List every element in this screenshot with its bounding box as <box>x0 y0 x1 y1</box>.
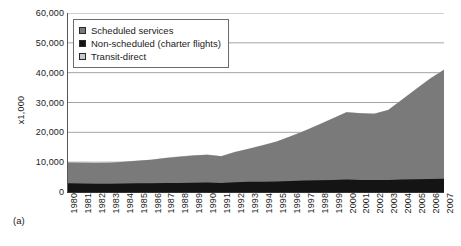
x-tick-label: 2003 <box>390 193 399 233</box>
figure-panel: x1,000 60,00050,00040,00030,00020,00010,… <box>0 0 461 246</box>
legend-swatch-icon <box>79 40 86 47</box>
x-tick-label: 1996 <box>293 193 302 233</box>
chart-legend: Scheduled servicesNon-scheduled (charter… <box>73 19 229 68</box>
y-tick-label: 60,000 <box>16 9 64 18</box>
x-tick-label: 1989 <box>195 193 204 233</box>
x-tick-label: 1990 <box>209 193 218 233</box>
legend-item: Non-scheduled (charter flights) <box>79 37 221 50</box>
x-tick-label: 2006 <box>432 193 441 233</box>
legend-item: Transit-direct <box>79 50 221 63</box>
x-tick-label: 2007 <box>446 193 455 233</box>
legend-item-label: Non-scheduled (charter flights) <box>91 39 221 49</box>
x-tick-label: 1988 <box>181 193 190 233</box>
x-tick-label: 1998 <box>321 193 330 233</box>
x-tick-label: 1985 <box>140 193 149 233</box>
y-tick-label: 20,000 <box>16 128 64 137</box>
x-tick-label: 1993 <box>251 193 260 233</box>
area-series <box>68 70 444 192</box>
x-tick-label: 1986 <box>154 193 163 233</box>
x-tick-label: 2005 <box>418 193 427 233</box>
x-tick-label: 2000 <box>349 193 358 233</box>
x-tick-label: 1981 <box>84 193 93 233</box>
x-tick-label: 2001 <box>362 193 371 233</box>
y-tick-label: 10,000 <box>16 158 64 167</box>
x-tick-label: 1980 <box>70 193 79 233</box>
x-axis-tick-labels: 1980198119821983198419851986198719881989… <box>67 193 445 246</box>
x-tick-label: 1997 <box>307 193 316 233</box>
y-tick-label: 40,000 <box>16 69 64 78</box>
x-tick-label: 2004 <box>404 193 413 233</box>
x-tick-label: 1999 <box>335 193 344 233</box>
legend-swatch-icon <box>79 53 86 60</box>
x-tick-label: 1991 <box>223 193 232 233</box>
legend-swatch-icon <box>79 27 86 34</box>
panel-label: (a) <box>13 215 25 226</box>
y-axis-tick-labels: 60,00050,00040,00030,00020,00010,0000 <box>14 0 64 246</box>
x-tick-label: 1984 <box>126 193 135 233</box>
x-tick-label: 1983 <box>112 193 121 233</box>
y-tick-label: 0 <box>16 188 64 197</box>
y-tick-label: 50,000 <box>16 39 64 48</box>
x-tick-label: 2002 <box>376 193 385 233</box>
x-tick-label: 1982 <box>98 193 107 233</box>
y-tick-label: 30,000 <box>16 99 64 108</box>
legend-item-label: Scheduled services <box>91 26 173 36</box>
x-tick-label: 1992 <box>237 193 246 233</box>
x-tick-label: 1987 <box>167 193 176 233</box>
legend-item: Scheduled services <box>79 24 221 37</box>
legend-item-label: Transit-direct <box>91 52 146 62</box>
x-tick-label: 1994 <box>265 193 274 233</box>
x-tick-label: 1995 <box>279 193 288 233</box>
